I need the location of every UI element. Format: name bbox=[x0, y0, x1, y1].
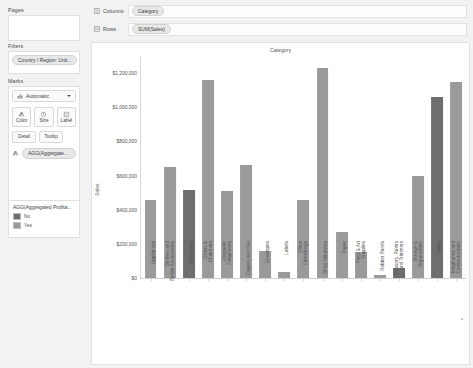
y-axis-tick: $200,000 bbox=[117, 241, 137, 246]
rows-shelf-dropzone[interactable]: SUM(Sales) bbox=[128, 23, 467, 36]
x-axis-label[interactable]: Office Machines bbox=[323, 241, 328, 323]
filters-dropzone[interactable]: Country / Region: Unit... bbox=[8, 51, 80, 74]
size-button[interactable]: Size bbox=[34, 107, 53, 127]
rows-shelf-label: Rows bbox=[103, 26, 116, 32]
marks-encoding-buttons-row-2: Detail Tooltip bbox=[12, 131, 76, 143]
columns-shelf-dropzone[interactable]: Category bbox=[128, 5, 467, 18]
x-axis-label-slot: Paper bbox=[332, 282, 351, 364]
x-axis-label-slot: Rubber Bands bbox=[370, 282, 389, 364]
tooltip-button[interactable]: Tooltip bbox=[39, 131, 63, 143]
filter-pill-country-region[interactable]: Country / Region: Unit... bbox=[12, 55, 77, 66]
legend-item-yes[interactable]: Yes bbox=[13, 222, 75, 229]
legend-label-yes: Yes bbox=[24, 223, 32, 228]
x-axis-label[interactable]: Appliances bbox=[151, 241, 156, 323]
legend-swatch-yes bbox=[13, 222, 21, 229]
y-axis-tick: $600,000 bbox=[117, 173, 137, 178]
y-axis-tick: $1,200,000 bbox=[113, 71, 137, 76]
x-axis-label-slot: Binders andBinder Accessories bbox=[160, 282, 179, 364]
filters-title: Filters bbox=[8, 43, 80, 49]
x-axis-label[interactable]: Scissors, Rulersand Trimmers bbox=[394, 241, 405, 323]
marks-card: Automatic Color bbox=[8, 86, 80, 204]
x-axis-label[interactable]: Storage &Organization bbox=[413, 241, 424, 323]
x-axis-label-slot: Labels bbox=[275, 282, 294, 364]
pages-shelf-section: Pages bbox=[8, 7, 80, 41]
x-axis-label-slot: Tables bbox=[428, 282, 447, 364]
x-axis-label-slot: ComputerPeripherals bbox=[217, 282, 236, 364]
x-axis-label[interactable]: ComputerPeripherals bbox=[222, 241, 233, 323]
filters-shelf-section: Filters Country / Region: Unit... bbox=[8, 43, 80, 74]
color-button[interactable]: Color bbox=[12, 107, 31, 127]
label-button[interactable]: Label bbox=[57, 107, 76, 127]
x-axis-label-slot: Copiers and Fax bbox=[237, 282, 256, 364]
marks-color-encoding-row: AGG(Aggregated ... bbox=[12, 148, 76, 159]
x-axis-label-slot: Scissors, Rulersand Trimmers bbox=[390, 282, 409, 364]
color-legend-card: AGG(Aggregated Profita... No Yes bbox=[8, 200, 80, 238]
tooltip-button-label: Tooltip bbox=[44, 135, 58, 140]
tableau-worksheet: Pages Filters Country / Region: Unit... … bbox=[0, 0, 473, 368]
mark-type-label: Automatic bbox=[26, 93, 64, 99]
x-axis-label[interactable]: Tables bbox=[437, 241, 442, 323]
marks-card-section: Marks Automatic bbox=[8, 78, 80, 204]
rows-shelf-icon bbox=[94, 26, 100, 32]
legend-swatch-no bbox=[13, 213, 21, 220]
x-axis-label[interactable]: Labels bbox=[284, 241, 289, 323]
y-axis-tick: $0 bbox=[132, 276, 137, 281]
columns-shelf: Columns Category bbox=[94, 4, 467, 18]
column-header-label: Category bbox=[270, 47, 291, 53]
y-axis-ticks: $0$200,000$400,000$600,000$800,000$1,000… bbox=[98, 56, 140, 278]
x-axis-label-slot: Storage &Organization bbox=[409, 282, 428, 364]
x-axis-label[interactable]: Binders andBinder Accessories bbox=[165, 241, 176, 323]
detail-button-label: Detail bbox=[18, 135, 30, 140]
color-palette-icon bbox=[18, 111, 25, 118]
y-axis-tick: $1,000,000 bbox=[113, 105, 137, 110]
x-axis-label-slot: Telephones andCommunication bbox=[447, 282, 466, 364]
columns-shelf-label: Columns bbox=[103, 8, 123, 14]
x-axis-label-slot: Bookcases bbox=[179, 282, 198, 364]
chevron-down-icon[interactable] bbox=[67, 95, 71, 97]
x-axis-label[interactable]: Pens & ArtSupplies bbox=[356, 241, 367, 323]
x-axis-label[interactable]: Telephones andCommunication bbox=[451, 241, 462, 323]
columns-pill-category[interactable]: Category bbox=[132, 6, 164, 17]
x-axis-label-slot: Appliances bbox=[141, 282, 160, 364]
y-axis-tick: $400,000 bbox=[117, 207, 137, 212]
detail-button[interactable]: Detail bbox=[12, 131, 36, 143]
color-button-label: Color bbox=[16, 119, 27, 124]
chart-pane: Category Sales $0$200,000$400,000$600,00… bbox=[91, 42, 470, 365]
size-button-label: Size bbox=[39, 119, 48, 124]
columns-shelf-icon bbox=[94, 8, 100, 14]
left-sidebar: Pages Filters Country / Region: Unit... … bbox=[0, 0, 88, 368]
column-header-category: Category bbox=[92, 43, 469, 56]
pages-dropzone[interactable] bbox=[8, 15, 80, 41]
y-axis-tick: $800,000 bbox=[117, 139, 137, 144]
plot-area-wrapper: Sales $0$200,000$400,000$600,000$800,000… bbox=[92, 56, 471, 366]
legend-item-no[interactable]: No bbox=[13, 213, 75, 220]
marks-encoding-pill-agg-aggregated[interactable]: AGG(Aggregated ... bbox=[22, 148, 76, 159]
mark-type-dropdown[interactable]: Automatic bbox=[12, 90, 76, 102]
size-circle-icon bbox=[40, 111, 47, 118]
x-axis-label[interactable]: Chairs &Chairmats bbox=[203, 241, 214, 323]
bar-mark-icon bbox=[17, 93, 23, 99]
legend-label-no: No bbox=[24, 214, 30, 219]
marks-title: Marks bbox=[8, 78, 80, 84]
x-axis-label-slot: Office Machines bbox=[313, 282, 332, 364]
pages-title: Pages bbox=[8, 7, 80, 13]
rows-shelf: Rows SUM(Sales) bbox=[94, 22, 467, 36]
shelves-area: Columns Category Rows SUM(Sales) bbox=[88, 0, 473, 42]
x-axis-label[interactable]: Bookcases bbox=[189, 241, 194, 323]
marks-encoding-buttons-row-1: Color Size bbox=[12, 107, 76, 127]
x-axis-label[interactable]: Rubber Bands bbox=[380, 241, 385, 323]
x-axis-label-slot: Envelopes bbox=[256, 282, 275, 364]
color-palette-icon bbox=[12, 150, 19, 157]
pane-corner-marker bbox=[461, 318, 463, 320]
x-axis-label[interactable]: Paper bbox=[342, 241, 347, 323]
color-legend-section: AGG(Aggregated Profita... No Yes bbox=[8, 200, 80, 238]
x-axis-label-slot: Chairs &Chairmats bbox=[198, 282, 217, 364]
x-axis-label[interactable]: Copiers and Fax bbox=[246, 241, 251, 323]
label-button-label: Label bbox=[61, 119, 72, 124]
x-axis-label-slot: OfficeFurnishings bbox=[294, 282, 313, 364]
x-axis-label-slot: Pens & ArtSupplies bbox=[351, 282, 370, 364]
rows-pill-sum-sales[interactable]: SUM(Sales) bbox=[132, 24, 171, 35]
x-axis-label[interactable]: OfficeFurnishings bbox=[298, 241, 309, 323]
x-axis-labels: AppliancesBinders andBinder AccessoriesB… bbox=[141, 279, 466, 365]
x-axis-label[interactable]: Envelopes bbox=[265, 241, 270, 323]
